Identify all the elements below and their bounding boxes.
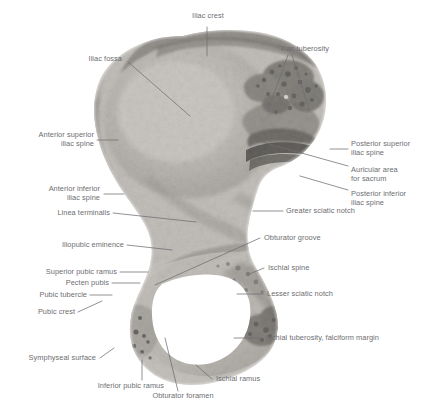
label-ischial-spine: Ischial spine: [268, 264, 334, 273]
label-iliac-fossa: Iliac fossa: [58, 55, 122, 64]
label-posterior-superior-iliac-spine: Posterior superior iliac spine: [351, 140, 423, 158]
label-pecten-pubis: Pecten pubis: [38, 279, 109, 288]
label-obturator-foramen: Obturator foramen: [144, 392, 222, 401]
label-obturator-groove: Obturator groove: [264, 234, 348, 243]
label-iliopubic-eminence: Iliopubic eminence: [34, 241, 124, 250]
label-pubic-crest: Pubic crest: [20, 308, 75, 317]
label-anterior-inferior-iliac-spine: Anterior inferior iliac spine: [20, 185, 100, 203]
label-symphyseal-surface: Symphyseal surface: [10, 354, 96, 363]
label-posterior-inferior-iliac-spine: Posterior inferior iliac spine: [351, 190, 423, 208]
label-linea-terminalis: Linea terminalis: [38, 209, 110, 218]
label-iliac-tuberosity: Iliac tuberosity: [281, 45, 361, 54]
anatomy-figure-page: Iliac crest Iliac fossa Iliac tuberosity…: [0, 0, 423, 408]
label-superior-pubic-ramus: Superior pubic ramus: [20, 268, 117, 277]
label-anterior-superior-iliac-spine: Anterior superior iliac spine: [10, 131, 94, 149]
label-ischial-ramus: Ischial ramus: [216, 375, 286, 384]
label-ischial-tuberosity-falciform-margin: Ischial tuberosity, falciform margin: [266, 334, 416, 343]
label-lesser-sciatic-notch: Lesser sciatic notch: [267, 290, 357, 299]
label-iliac-crest: Iliac crest: [178, 12, 238, 21]
label-auricular-area-for-sacrum: Auricular area for sacrum: [351, 166, 421, 184]
label-pubic-tubercle: Pubic tubercle: [18, 291, 87, 300]
label-greater-sciatic-notch: Greater sciatic notch: [286, 207, 382, 216]
label-inferior-pubic-ramus: Inferior pubic ramus: [74, 382, 164, 391]
